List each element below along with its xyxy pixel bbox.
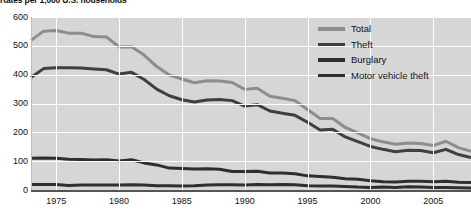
chart-legend: TotalTheftBurglaryMotor vehicle theft — [318, 24, 429, 81]
x-axis-tick-label: 2005 — [413, 196, 453, 206]
legend-label: Total — [351, 24, 371, 34]
series-line — [31, 185, 471, 188]
gridline-horizontal — [31, 132, 471, 133]
y-axis-tick-label: 0 — [2, 186, 28, 195]
y-axis-tick-label: 500 — [2, 41, 28, 50]
legend-color-swatch — [318, 58, 345, 62]
y-axis-tick-labels: 0100200300400500600 — [0, 0, 28, 215]
legend-item: Motor vehicle theft — [318, 71, 429, 81]
x-axis-tick-label: 1995 — [288, 196, 328, 206]
y-axis-tick-label: 100 — [2, 157, 28, 166]
legend-color-swatch — [318, 74, 345, 78]
gridline-horizontal — [31, 161, 471, 162]
gridline-vertical — [182, 17, 183, 190]
legend-item: Burglary — [318, 55, 429, 65]
y-axis-tick-label: 400 — [2, 70, 28, 79]
legend-item: Total — [318, 24, 429, 34]
gridline-vertical — [308, 17, 309, 190]
x-axis-tick-label: 1980 — [99, 196, 139, 206]
legend-color-swatch — [318, 43, 345, 47]
gridline-vertical — [56, 17, 57, 190]
legend-label: Burglary — [351, 55, 386, 65]
gridline-vertical — [245, 17, 246, 190]
y-axis-tick-label: 600 — [2, 13, 28, 22]
gridline-vertical — [433, 17, 434, 190]
crime-rate-line-chart: Rates per 1,000 U.S. households 01002003… — [0, 0, 471, 215]
y-axis-tick-label: 300 — [2, 99, 28, 108]
y-axis-tick-label: 200 — [2, 128, 28, 137]
legend-item: Theft — [318, 40, 429, 50]
gridline-vertical — [119, 17, 120, 190]
x-axis-tick-label: 1985 — [162, 196, 202, 206]
legend-label: Motor vehicle theft — [351, 71, 429, 81]
x-axis-line — [31, 190, 471, 192]
x-axis-tick-label: 2000 — [350, 196, 390, 206]
gridline-horizontal — [31, 17, 471, 18]
x-axis-tick-label: 1975 — [36, 196, 76, 206]
gridline-horizontal — [31, 104, 471, 105]
legend-color-swatch — [318, 27, 345, 31]
y-axis-line — [31, 17, 32, 191]
x-axis-tick-label: 1990 — [225, 196, 265, 206]
legend-label: Theft — [351, 40, 373, 50]
